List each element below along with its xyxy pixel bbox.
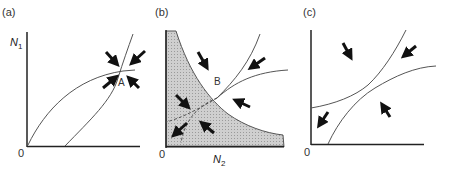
x-axis-label: N2	[213, 153, 225, 168]
panel-a-label: (a)	[2, 6, 15, 18]
arrow-icon	[103, 78, 115, 88]
panel-b	[166, 30, 288, 148]
arrow-icon	[130, 79, 139, 88]
isocline-2	[328, 66, 436, 144]
arrow-icon	[106, 52, 116, 63]
panel-b-label: (b)	[155, 6, 168, 18]
isocline-2	[217, 70, 288, 98]
x-axis-sub: 2	[221, 159, 225, 168]
y-axis-label: N1	[10, 36, 22, 51]
panel-c	[311, 30, 436, 145]
arrow-icon	[320, 112, 328, 124]
isocline-2	[65, 34, 133, 146]
y-axis-sub: 1	[18, 42, 22, 51]
origin-label-b: 0	[159, 148, 165, 160]
origin-label-c: 0	[304, 146, 310, 158]
y-axis-var: N	[10, 36, 18, 48]
arrow-icon	[405, 46, 416, 55]
point-b-label: B	[214, 76, 221, 87]
arrow-icon	[133, 51, 145, 62]
origin-label-a: 0	[18, 147, 24, 159]
arrow-icon	[383, 106, 390, 117]
point-a-label: A	[118, 77, 125, 88]
arrow-icon	[252, 58, 265, 67]
arrow-icon	[237, 101, 250, 107]
phase-plane-diagrams	[0, 0, 449, 173]
panel-a	[27, 32, 145, 147]
isocline-1	[311, 30, 406, 108]
arrow-icon	[343, 43, 350, 56]
x-axis-var: N	[213, 153, 221, 165]
arrow-icon	[198, 52, 206, 66]
panel-c-label: (c)	[303, 6, 316, 18]
